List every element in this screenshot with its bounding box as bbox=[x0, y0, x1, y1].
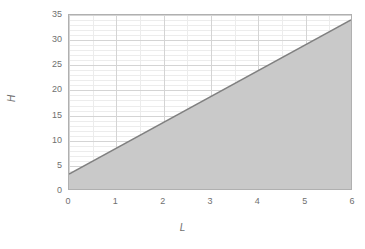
x-axis-tick-label: 2 bbox=[152, 196, 174, 206]
y-axis-tick-label: 0 bbox=[40, 185, 62, 195]
feasible-region-svg bbox=[69, 15, 351, 189]
x-axis-tick-label: 3 bbox=[199, 196, 221, 206]
x-axis-title: L bbox=[0, 222, 365, 233]
x-axis-tick-label: 5 bbox=[294, 196, 316, 206]
x-axis-tick-label: 1 bbox=[104, 196, 126, 206]
y-axis-tick-label: 5 bbox=[40, 160, 62, 170]
plot-area bbox=[68, 14, 352, 190]
chart-container: 05101520253035 0123456 H L bbox=[0, 0, 365, 249]
y-axis-title: H bbox=[6, 95, 17, 102]
y-axis-tick-label: 30 bbox=[40, 34, 62, 44]
y-axis-tick-label: 10 bbox=[40, 135, 62, 145]
x-axis-tick-label: 4 bbox=[246, 196, 268, 206]
y-axis-tick-label: 25 bbox=[40, 59, 62, 69]
x-axis-tick-label: 6 bbox=[341, 196, 363, 206]
y-axis-tick-label: 20 bbox=[40, 84, 62, 94]
y-axis-tick-label: 15 bbox=[40, 110, 62, 120]
shaded-region bbox=[69, 20, 351, 189]
y-axis-tick-label: 35 bbox=[40, 9, 62, 19]
x-axis-tick-label: 0 bbox=[57, 196, 79, 206]
